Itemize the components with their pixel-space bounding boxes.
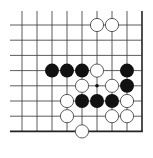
white-stone <box>90 64 103 77</box>
black-stone <box>105 94 119 108</box>
white-stone <box>90 18 103 31</box>
go-board <box>0 0 153 158</box>
white-stone <box>105 79 118 92</box>
black-stone <box>75 94 89 108</box>
white-stone <box>120 110 133 123</box>
star-point <box>95 84 99 88</box>
white-stone <box>105 18 118 31</box>
black-stone <box>75 64 89 78</box>
black-stone <box>60 64 74 78</box>
black-stone <box>120 79 134 93</box>
black-stone <box>120 64 134 78</box>
white-stone <box>120 94 133 107</box>
white-stone <box>105 110 118 123</box>
white-stone <box>75 125 88 138</box>
white-stone <box>60 94 73 107</box>
white-stone <box>75 79 88 92</box>
stones <box>45 18 134 138</box>
black-stone <box>90 94 104 108</box>
black-stone <box>45 64 59 78</box>
white-stone <box>60 110 73 123</box>
star-points <box>95 84 99 88</box>
